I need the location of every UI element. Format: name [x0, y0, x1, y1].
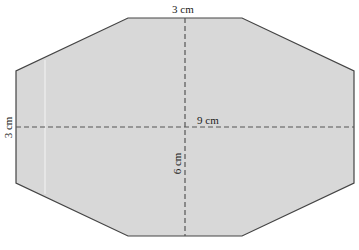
top-edge-label: 3 cm: [172, 4, 194, 15]
left-edge-label: 3 cm: [3, 113, 14, 143]
width-label: 9 cm: [197, 115, 219, 126]
octagon-diagram: [0, 0, 359, 250]
height-label: 6 cm: [172, 149, 183, 179]
